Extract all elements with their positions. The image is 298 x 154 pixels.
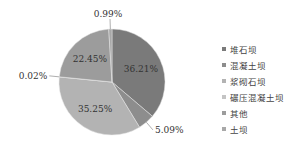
legend-item: 混凝土坝 [222, 57, 284, 73]
legend-swatch [222, 95, 226, 99]
legend-item: 碾压混凝土坝 [222, 89, 284, 105]
slice-label: 36.21% [124, 64, 159, 74]
slice-label: 0.02% [19, 71, 48, 81]
legend-label: 堆石坝 [230, 43, 257, 55]
legend-label: 混凝土坝 [230, 59, 266, 71]
leader-line [146, 122, 152, 130]
slice-label: 5.09% [155, 125, 184, 135]
slice-label: 22.45% [73, 54, 108, 64]
legend-label: 浆砌石坝 [230, 75, 266, 87]
legend-swatch [222, 63, 226, 67]
legend-swatch [222, 47, 226, 51]
legend-swatch [222, 127, 226, 131]
legend-item: 堆石坝 [222, 41, 284, 57]
legend: 堆石坝混凝土坝浆砌石坝碾压混凝土坝其他土坝 [222, 41, 284, 137]
legend-label: 其他 [230, 107, 248, 119]
slice-label: 0.99% [94, 9, 123, 19]
legend-item: 浆砌石坝 [222, 73, 284, 89]
leader-line [49, 76, 59, 77]
legend-swatch [222, 79, 226, 83]
legend-item: 其他 [222, 105, 284, 121]
legend-label: 碾压混凝土坝 [230, 91, 284, 103]
slice-label: 35.25% [78, 104, 113, 114]
legend-swatch [222, 111, 226, 115]
legend-label: 土坝 [230, 123, 248, 135]
legend-item: 土坝 [222, 121, 284, 137]
